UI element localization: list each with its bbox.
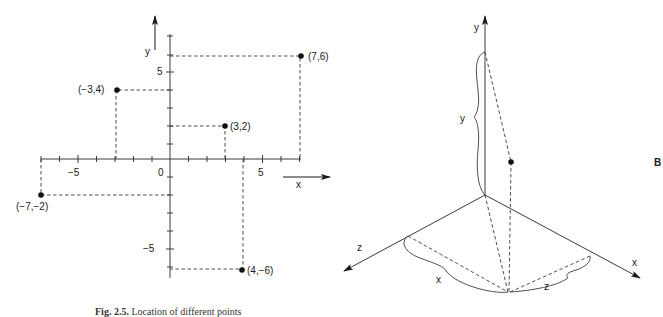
3d-z-axis: [344, 195, 485, 271]
point-label: (4,−6): [247, 265, 273, 276]
point-3-2: [222, 123, 228, 129]
panel-b-label: B: [654, 157, 661, 168]
point-4-neg6: [239, 267, 245, 273]
panel-a-2d-plot: y x −5 5 0 5 −5 (7,6): [16, 16, 330, 278]
x-axis-label: x: [296, 179, 301, 190]
3d-y-axis-label: y: [474, 22, 479, 33]
3d-point: [508, 159, 514, 165]
x-distance-brace: [404, 236, 508, 292]
y-tick-label-neg5: −5: [143, 243, 155, 254]
point-label: (−3,4): [78, 84, 104, 95]
figure-canvas: y x −5 5 0 5 −5 (7,6): [0, 0, 663, 317]
caption-figure-number: Fig. 2.5.: [95, 306, 129, 317]
panel-b-3d-diagram: y z x y x z B: [344, 16, 661, 292]
y-distance-label: y: [460, 113, 465, 124]
point-label: (7,6): [308, 51, 329, 62]
y-tick-label-5: 5: [157, 66, 163, 77]
figure-caption: Fig. 2.5. Location of different points: [95, 306, 241, 317]
origin-label: 0: [158, 167, 164, 178]
point-label: (−7,−2): [16, 201, 48, 212]
x-distance-label: x: [436, 274, 441, 285]
z-distance-label: z: [544, 281, 549, 292]
y-distance-brace: [474, 52, 485, 195]
point-label: (3,2): [230, 121, 251, 132]
x-tick-label-5: 5: [258, 167, 264, 178]
x-tick-label-neg5: −5: [68, 167, 80, 178]
point-neg7-neg2: [38, 192, 44, 198]
3d-x-axis: [485, 195, 640, 278]
y-axis-label: y: [145, 46, 150, 57]
3d-x-axis-label: x: [632, 257, 637, 268]
point-neg3-4: [114, 87, 120, 93]
3d-z-axis-label: z: [357, 242, 362, 253]
construction-lines: [408, 52, 590, 292]
point-7-6: [298, 53, 304, 59]
caption-text: Location of different points: [131, 306, 241, 317]
